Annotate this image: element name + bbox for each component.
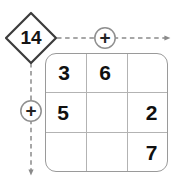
puzzle-diagram: 14 + + 3 6 5 2 7 (0, 0, 179, 184)
cell-r3c1[interactable] (46, 133, 87, 172)
number-grid: 3 6 5 2 7 (45, 53, 168, 172)
cell-r1c3[interactable] (128, 54, 168, 93)
cell-r3c3[interactable]: 7 (128, 133, 168, 172)
cell-r3c2[interactable] (87, 133, 128, 172)
cell-r1c1[interactable]: 3 (46, 54, 87, 93)
cell-value-r2c1: 5 (45, 101, 83, 125)
cell-r1c2[interactable]: 6 (87, 54, 128, 93)
cell-value-r3c3: 7 (131, 141, 168, 165)
cell-value-r1c1: 3 (45, 61, 84, 85)
cell-r2c3[interactable]: 2 (128, 93, 168, 133)
horizontal-plus-circle (95, 28, 115, 48)
cell-r2c2[interactable] (87, 93, 128, 133)
cell-r2c1[interactable]: 5 (46, 93, 87, 133)
cell-value-r1c2: 6 (85, 61, 125, 85)
cell-value-r2c3: 2 (131, 101, 168, 125)
vertical-plus-circle (21, 101, 41, 121)
